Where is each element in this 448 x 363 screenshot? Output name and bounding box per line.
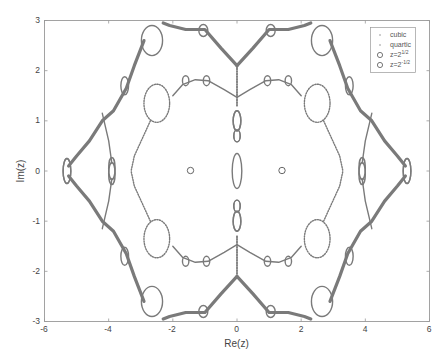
y-tick-label: -2 <box>32 266 40 276</box>
legend-label-cubic: cubic <box>390 31 407 38</box>
legend-label-quartic: quartic <box>390 41 412 49</box>
legend-dot-icon <box>379 34 380 35</box>
x-tick-labels: -6 -4 -2 0 2 4 6 <box>40 324 431 334</box>
y-tick-label: 2 <box>35 65 40 75</box>
x-tick-label: -4 <box>104 324 112 334</box>
x-axis-label: Re(z) <box>224 338 248 349</box>
y-tick-labels: -3 -2 -1 0 1 2 3 <box>32 15 40 326</box>
x-tick-label: 6 <box>427 324 432 334</box>
figure: -6 -4 -2 0 2 4 6 -3 -2 -1 0 1 2 3 Re(z) … <box>0 0 448 363</box>
x-tick-label: 2 <box>299 324 304 334</box>
y-tick-label: -1 <box>32 216 40 226</box>
y-tick-label: 0 <box>35 166 40 176</box>
y-tick-label: 1 <box>35 115 40 125</box>
y-tick-label: 3 <box>35 15 40 25</box>
x-tick-label: -6 <box>40 324 48 334</box>
x-tick-label: -2 <box>168 324 176 334</box>
x-tick-label: 0 <box>234 324 239 334</box>
legend: cubic quartic z=21/2 z=2-1/2 <box>371 28 416 73</box>
y-axis-label: Im(z) <box>15 160 26 183</box>
legend-dot-icon <box>379 44 380 45</box>
x-tick-label: 4 <box>363 324 368 334</box>
y-tick-label: -3 <box>32 316 40 326</box>
